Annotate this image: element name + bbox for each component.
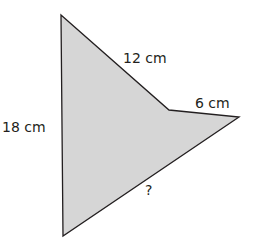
short-side-length-label: 6 cm (195, 96, 230, 110)
arrowhead-polygon (61, 15, 239, 236)
unknown-side-label: ? (145, 183, 152, 197)
left-side-length-label: 18 cm (2, 120, 46, 134)
diagram-canvas: 18 cm 12 cm 6 cm ? (0, 0, 253, 250)
upper-side-length-label: 12 cm (123, 51, 167, 65)
